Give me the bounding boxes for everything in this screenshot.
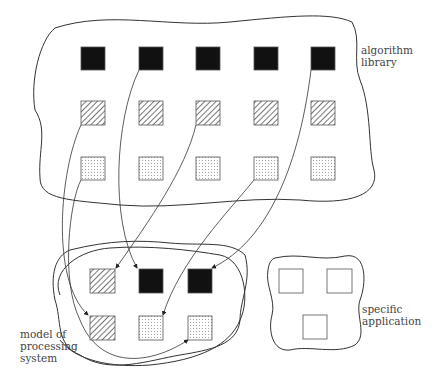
library-hatched-2 xyxy=(139,101,163,125)
library-solid-2 xyxy=(139,47,163,70)
library-solid-4 xyxy=(254,47,278,70)
model-boundary-outer xyxy=(58,247,245,366)
library-hatched-1 xyxy=(81,101,105,125)
library-dotted-3 xyxy=(196,157,220,180)
model-squares xyxy=(90,269,212,340)
library-solid-1 xyxy=(81,47,105,70)
model-label: model of processing system xyxy=(20,328,78,364)
algorithm-library-label: algorithm library xyxy=(361,44,413,68)
library-hatched-3 xyxy=(196,101,220,125)
library-dotted-1 xyxy=(81,157,105,180)
library-hatched-5 xyxy=(311,101,335,125)
model-boundary xyxy=(53,241,247,365)
application-label: specific application xyxy=(362,303,421,327)
library-dotted-5 xyxy=(311,157,335,180)
library-hatched-4 xyxy=(254,101,278,125)
library-solid-3 xyxy=(196,47,220,70)
library-dotted-4 xyxy=(254,157,278,180)
application-squares xyxy=(279,269,352,339)
library-solid-5 xyxy=(311,47,335,70)
library-dotted-2 xyxy=(139,157,163,180)
